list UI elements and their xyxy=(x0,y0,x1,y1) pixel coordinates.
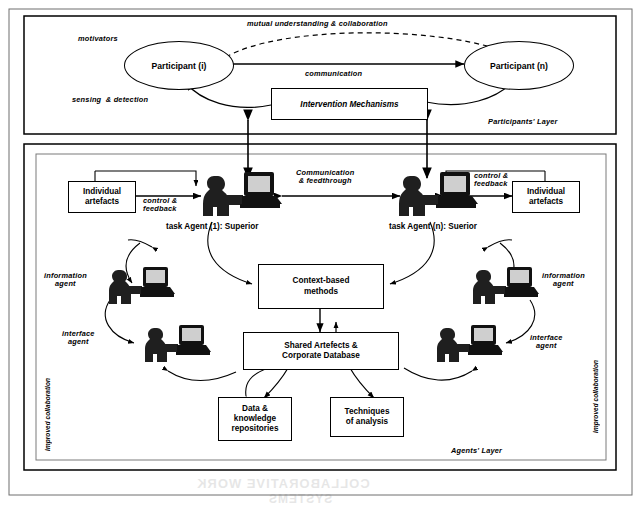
interface-agent-left-label: interface agent xyxy=(62,330,95,347)
improved-collaboration-left-label: improved collaboration xyxy=(44,378,51,451)
interface-agent-right-label: interface agent xyxy=(530,334,563,351)
communication-feedthrough-label: Communication & feedthrough xyxy=(296,169,354,186)
intervention-mechanisms-box[interactable]: Intervention Mechanisms xyxy=(271,88,428,120)
diagram-root: Participant (i) Participant (n) Interven… xyxy=(0,0,641,510)
interface-agent-right-figure xyxy=(434,320,504,364)
improved-collaboration-right-label: improved collaboration xyxy=(592,360,599,433)
participant-n-label: Participant (n) xyxy=(465,61,573,71)
context-based-methods-label: Context-based methods xyxy=(293,276,350,297)
control-feedback-left-label: control & feedback xyxy=(143,197,177,214)
individual-artefacts-left-label: Individual artefacts xyxy=(83,187,121,208)
context-based-methods-box[interactable]: Context-based methods xyxy=(258,264,384,309)
background-text-line1: COLLABORATIVE WORK xyxy=(196,476,370,491)
individual-artefacts-right-box[interactable]: Individual artefacts xyxy=(512,181,580,213)
intervention-mechanisms-label: Intervention Mechanisms xyxy=(300,100,398,109)
sensing-detection-label: sensing & detection xyxy=(72,96,148,104)
data-knowledge-repositories-box[interactable]: Data & knowledge repositories xyxy=(218,397,292,441)
task-agent-1-label: task Agent (1): Superior xyxy=(166,222,259,231)
individual-artefacts-left-box[interactable]: Individual artefacts xyxy=(68,181,136,213)
participant-n-ellipse[interactable]: Participant (n) xyxy=(464,41,574,90)
task-agent-n-figure xyxy=(396,166,480,218)
techniques-of-analysis-box[interactable]: Techniques of analysis xyxy=(330,397,404,437)
information-agent-right-figure xyxy=(470,262,540,306)
participants-layer-label: Participants' Layer xyxy=(488,118,558,126)
mutual-understanding-label: mutual understanding & collaboration xyxy=(247,20,388,28)
background-text-line2: SYSTEMS xyxy=(268,492,332,506)
information-agent-right-label: information agent xyxy=(542,272,585,289)
data-knowledge-repositories-label: Data & knowledge repositories xyxy=(232,404,279,435)
communication-label: communication xyxy=(305,70,362,78)
individual-artefacts-right-label: Individual artefacts xyxy=(527,187,565,208)
shared-artefacts-box[interactable]: Shared Artefects & Corporate Database xyxy=(243,332,399,370)
information-agent-left-label: information agent xyxy=(44,272,87,289)
information-agent-left-figure xyxy=(106,262,176,306)
shared-artefacts-label: Shared Artefects & Corporate Database xyxy=(282,341,360,362)
motivators-label: motivators xyxy=(78,35,118,43)
agents-layer-label: Agents' Layer xyxy=(451,447,502,455)
control-feedback-right-label: control & feedback xyxy=(474,172,508,189)
techniques-of-analysis-label: Techniques of analysis xyxy=(345,407,390,428)
participant-i-ellipse[interactable]: Participant (i) xyxy=(124,41,234,90)
task-agent-1-figure xyxy=(200,166,284,218)
participant-i-label: Participant (i) xyxy=(125,61,233,71)
task-agent-n-label: task Agent (n): Suerior xyxy=(389,222,477,231)
interface-agent-left-figure xyxy=(142,320,212,364)
